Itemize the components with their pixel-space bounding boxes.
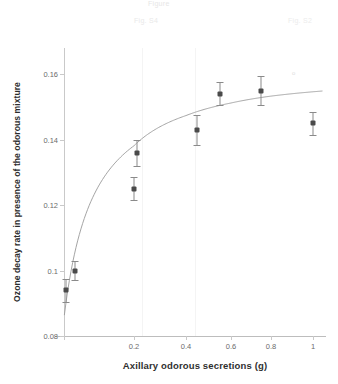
- data-point-marker: [72, 268, 77, 273]
- data-point-marker: [134, 150, 139, 155]
- x-tick-mark: [134, 336, 135, 340]
- x-tick-mark: [64, 336, 65, 340]
- y-axis-title-text: Ozone decay rate in presence of the odor…: [12, 82, 22, 302]
- error-bar-cap-upper: [131, 177, 138, 178]
- error-bar-cap-lower: [194, 145, 201, 146]
- data-point-marker: [195, 127, 200, 132]
- error-bar-cap-upper: [71, 261, 78, 262]
- x-tick-label: 1: [311, 342, 315, 351]
- y-tick-label: 0.14: [43, 135, 58, 144]
- error-bar-cap-lower: [216, 105, 223, 106]
- error-bar-cap-upper: [310, 112, 317, 113]
- x-tick-label: 0.6: [226, 342, 236, 351]
- data-point-marker: [217, 91, 222, 96]
- curve-smudge-mark: o: [292, 70, 295, 76]
- ghost-header-top: Figure: [148, 0, 170, 7]
- error-bar-cap-lower: [71, 280, 78, 281]
- y-tick-mark: [60, 140, 64, 141]
- error-bar-cap-lower: [133, 166, 140, 167]
- x-tick-mark: [313, 336, 314, 340]
- y-tick-label: 0.16: [43, 70, 58, 79]
- data-point-marker: [63, 288, 68, 293]
- y-axis-title: Ozone decay rate in presence of the odor…: [10, 46, 24, 338]
- error-bar-cap-lower: [131, 200, 138, 201]
- error-bar-cap-lower: [62, 302, 69, 303]
- x-tick-label: 0.2: [129, 342, 139, 351]
- y-tick-label: 0.12: [43, 201, 58, 210]
- x-tick-mark: [186, 336, 187, 340]
- data-point-marker: [311, 121, 316, 126]
- data-point-marker: [132, 186, 137, 191]
- y-tick-mark: [60, 74, 64, 75]
- y-tick-label: 0.1: [48, 266, 58, 275]
- data-point-marker: [259, 88, 264, 93]
- x-axis-line: [55, 336, 326, 337]
- ghost-header-right: Fig. S2: [288, 17, 312, 24]
- error-bar-cap-upper: [62, 279, 69, 280]
- error-bar-cap-upper: [194, 115, 201, 116]
- fitted-curve-path: [64, 91, 322, 315]
- y-tick-label: 0.08: [43, 332, 58, 341]
- x-tick-label: 0.8: [266, 342, 276, 351]
- error-bar-cap-upper: [258, 76, 265, 77]
- x-tick-mark: [231, 336, 232, 340]
- y-tick-mark: [60, 205, 64, 206]
- x-axis-title: Axillary odorous secretions (g): [64, 360, 326, 371]
- ghost-header-left: Fig. S4: [134, 17, 158, 24]
- error-bar-cap-upper: [133, 140, 140, 141]
- y-tick-mark: [60, 271, 64, 272]
- x-tick-mark: [271, 336, 272, 340]
- error-bar-cap-lower: [258, 105, 265, 106]
- plot-area: o 0.080.10.120.140.16 0.20.40.60.81 Axil…: [64, 48, 326, 336]
- fitted-curve: [64, 48, 326, 336]
- error-bar-cap-upper: [216, 82, 223, 83]
- x-tick-label: 0.4: [181, 342, 191, 351]
- error-bar-cap-lower: [310, 135, 317, 136]
- chart-figure: Figure Fig. S4 Fig. S2 Ozone decay rate …: [0, 0, 338, 384]
